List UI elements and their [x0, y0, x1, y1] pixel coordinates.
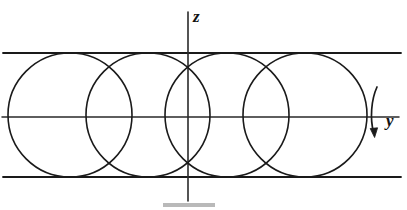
trajectory-circle-1 [8, 53, 132, 177]
trajectory-circle-3 [165, 53, 289, 177]
caption-placeholder-bar [163, 203, 215, 207]
figure-canvas: z y [0, 0, 407, 210]
trajectory-circle-4 [243, 53, 367, 177]
trajectory-diagram [0, 0, 407, 210]
curved-rotation-arrow-icon [370, 87, 377, 138]
z-axis-label: z [193, 8, 200, 25]
y-axis-label: y [386, 112, 394, 129]
trajectory-circle-2 [86, 53, 210, 177]
